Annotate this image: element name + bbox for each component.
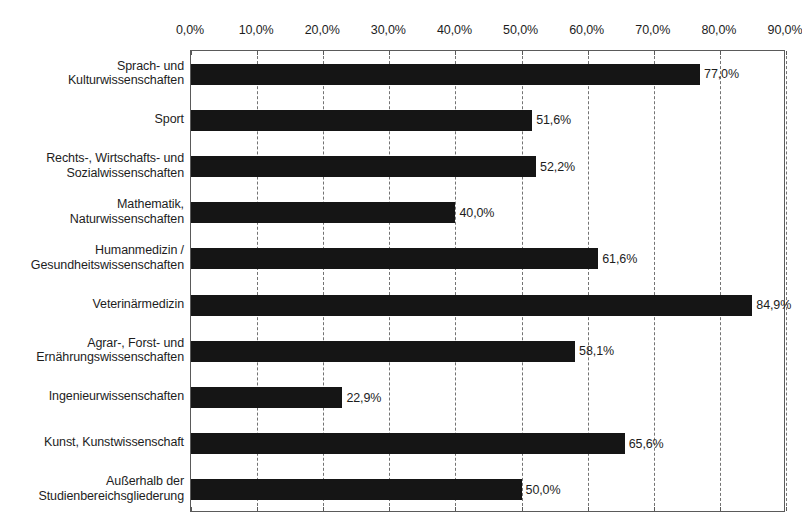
x-tick-label: 90,0%	[768, 22, 802, 38]
bar-row: 61,6%	[191, 248, 784, 269]
tick-mark	[786, 51, 787, 55]
category-label: Mathematik,Naturwissenschaften	[0, 197, 184, 226]
bar-row: 84,9%	[191, 295, 784, 316]
bar	[191, 295, 752, 316]
x-tick-label: 10,0%	[239, 22, 274, 38]
bar-row: 40,0%	[191, 202, 784, 223]
category-label-line: Außerhalb der	[0, 474, 184, 489]
category-label-line: Rechts-, Wirtschafts- und	[0, 151, 184, 166]
category-label: Kunst, Kunstwissenschaft	[0, 435, 184, 450]
bar-row: 51,6%	[191, 110, 784, 131]
bar	[191, 64, 700, 85]
tick-mark	[588, 51, 589, 55]
tick-mark	[720, 51, 721, 55]
tick-mark	[389, 51, 390, 55]
category-label-line: Humanmedizin /	[0, 243, 184, 258]
bar-value-label: 84,9%	[752, 298, 791, 312]
category-label-line: Veterinärmedizin	[0, 297, 184, 312]
category-label-line: Naturwissenschaften	[0, 212, 184, 227]
category-label-line: Ernährungswissenschaften	[0, 350, 184, 365]
bar-value-label: 50,0%	[522, 483, 561, 497]
x-tick-label: 50,0%	[503, 22, 538, 38]
bar-row: 22,9%	[191, 387, 784, 408]
y-axis-category-labels: Sprach- undKulturwissenschaftenSportRech…	[0, 50, 184, 512]
bar	[191, 156, 536, 177]
bar-row: 58,1%	[191, 341, 784, 362]
bar	[191, 387, 342, 408]
category-label-line: Ingenieurwissenschaften	[0, 389, 184, 404]
bar-value-label: 52,2%	[536, 160, 575, 174]
bar-value-label: 65,6%	[625, 437, 664, 451]
tick-mark	[654, 51, 655, 55]
x-axis-tick-labels: 0,0%10,0%20,0%30,0%40,0%50,0%60,0%70,0%8…	[0, 22, 796, 40]
tick-mark	[257, 51, 258, 55]
bar	[191, 479, 522, 500]
tick-mark	[257, 507, 258, 511]
bar	[191, 433, 625, 454]
category-label: Außerhalb derStudienbereichsgliederung	[0, 474, 184, 503]
tick-mark	[323, 51, 324, 55]
category-label-line: Mathematik,	[0, 197, 184, 212]
category-label: Veterinärmedizin	[0, 297, 184, 312]
category-label: Humanmedizin /Gesundheitswissenschaften	[0, 243, 184, 272]
bar-value-label: 58,1%	[575, 344, 614, 358]
category-label-line: Gesundheitswissenschaften	[0, 258, 184, 273]
x-tick-label: 30,0%	[371, 22, 406, 38]
x-tick-label: 0,0%	[176, 22, 204, 38]
tick-mark	[191, 51, 192, 55]
category-label-line: Studienbereichsgliederung	[0, 489, 184, 504]
bar-value-label: 51,6%	[532, 113, 571, 127]
tick-mark	[786, 507, 787, 511]
x-tick-label: 80,0%	[701, 22, 736, 38]
tick-mark	[588, 507, 589, 511]
category-label-line: Kunst, Kunstwissenschaft	[0, 435, 184, 450]
tick-mark	[455, 51, 456, 55]
tick-mark	[323, 507, 324, 511]
bar-value-label: 40,0%	[455, 206, 494, 220]
x-tick-label: 60,0%	[569, 22, 604, 38]
x-tick-label: 40,0%	[437, 22, 472, 38]
category-label-line: Kulturwissenschaften	[0, 73, 184, 88]
category-label: Sprach- undKulturwissenschaften	[0, 59, 184, 88]
bar-value-label: 77,0%	[700, 67, 739, 81]
bar-row: 65,6%	[191, 433, 784, 454]
bar-row: 77,0%	[191, 64, 784, 85]
category-label: Sport	[0, 112, 184, 127]
tick-mark	[522, 507, 523, 511]
category-label-line: Sprach- und	[0, 59, 184, 74]
tick-mark	[455, 507, 456, 511]
x-tick-label: 70,0%	[635, 22, 670, 38]
tick-mark	[720, 507, 721, 511]
plot-area: 77,0%51,6%52,2%40,0%61,6%84,9%58,1%22,9%…	[190, 50, 785, 512]
tick-mark	[191, 507, 192, 511]
category-label-line: Sport	[0, 112, 184, 127]
bar	[191, 248, 598, 269]
category-label: Ingenieurwissenschaften	[0, 389, 184, 404]
tick-mark	[654, 507, 655, 511]
gridline	[786, 51, 787, 511]
category-label: Agrar-, Forst- undErnährungswissenschaft…	[0, 336, 184, 365]
bar	[191, 110, 532, 131]
bar-row: 50,0%	[191, 479, 784, 500]
category-label-line: Agrar-, Forst- und	[0, 336, 184, 351]
bar-value-label: 61,6%	[598, 252, 637, 266]
bar-value-label: 22,9%	[342, 391, 381, 405]
category-label: Rechts-, Wirtschafts- undSozialwissensch…	[0, 151, 184, 180]
bar	[191, 341, 575, 362]
bar-row: 52,2%	[191, 156, 784, 177]
tick-mark	[522, 51, 523, 55]
bar	[191, 202, 455, 223]
category-label-line: Sozialwissenschaften	[0, 166, 184, 181]
x-tick-label: 20,0%	[305, 22, 340, 38]
tick-mark	[389, 507, 390, 511]
